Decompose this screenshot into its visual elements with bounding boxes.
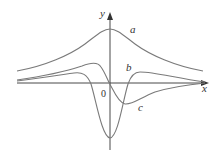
curve-b <box>17 63 205 104</box>
curve-c-label: c <box>138 101 143 113</box>
origin-label: 0 <box>101 88 106 99</box>
x-axis-label: x <box>201 82 207 94</box>
y-axis-label: y <box>99 7 105 19</box>
function-graph-figure: y x 0 a b c <box>0 0 217 155</box>
curve-a-label: a <box>130 23 136 35</box>
y-axis-arrow-icon <box>107 12 113 20</box>
curve-c <box>17 72 205 138</box>
curve-b-label: b <box>126 61 132 73</box>
graph-canvas: y x 0 a b c <box>0 0 217 155</box>
